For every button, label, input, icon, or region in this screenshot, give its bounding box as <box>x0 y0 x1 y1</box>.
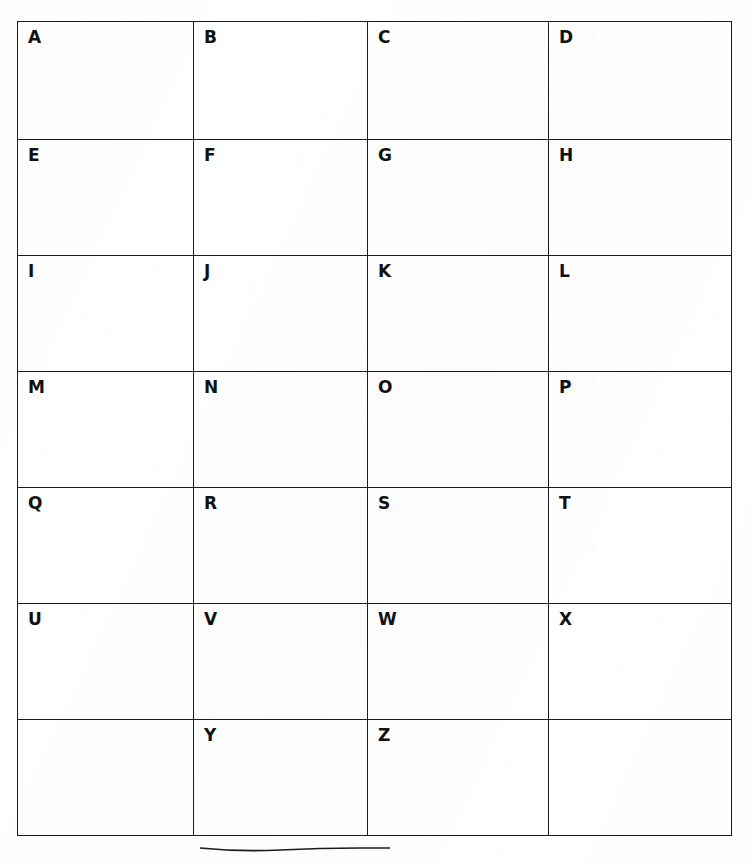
grid-cell-r[interactable]: R <box>194 488 368 604</box>
cell-letter-label: W <box>378 610 397 630</box>
grid-cell-m[interactable]: M <box>18 372 194 488</box>
cell-letter-label: X <box>559 610 572 630</box>
grid-cell-t[interactable]: T <box>549 488 732 604</box>
table-row: Y Z <box>18 720 732 836</box>
cell-letter-label: F <box>204 146 216 166</box>
grid-cell-o[interactable]: O <box>368 372 549 488</box>
cell-letter-label: L <box>559 262 570 282</box>
table-row: M N O P <box>18 372 732 488</box>
grid-cell-s[interactable]: S <box>368 488 549 604</box>
cell-letter-label: S <box>378 494 390 514</box>
cell-letter-label: B <box>204 28 217 48</box>
grid-cell-a[interactable]: A <box>18 22 194 140</box>
cell-letter-label: I <box>28 262 35 282</box>
cell-letter-label: T <box>559 494 571 514</box>
cell-letter-label: C <box>378 28 391 48</box>
grid-cell-c[interactable]: C <box>368 22 549 140</box>
cell-letter-label: J <box>204 262 211 282</box>
grid-cell-k[interactable]: K <box>368 256 549 372</box>
grid-cell-u[interactable]: U <box>18 604 194 720</box>
grid-cell-y[interactable]: Y <box>194 720 368 836</box>
table-row: A B C D <box>18 22 732 140</box>
grid-cell-i[interactable]: I <box>18 256 194 372</box>
cell-letter-label: Y <box>204 726 217 746</box>
alphabet-grid-body: A B C D E F <box>18 22 732 836</box>
cell-letter-label: R <box>204 494 217 514</box>
table-row: U V W X <box>18 604 732 720</box>
cell-letter-label: A <box>28 28 41 48</box>
table-row: Q R S T <box>18 488 732 604</box>
cell-letter-label: M <box>28 378 45 398</box>
cell-letter-label: Q <box>28 494 43 514</box>
grid-cell-d[interactable]: D <box>549 22 732 140</box>
grid-cell-z[interactable]: Z <box>368 720 549 836</box>
grid-cell-x[interactable]: X <box>549 604 732 720</box>
grid-cell-w[interactable]: W <box>368 604 549 720</box>
cell-letter-label: E <box>28 146 40 166</box>
grid-cell-q[interactable]: Q <box>18 488 194 604</box>
cell-letter-label: Z <box>378 726 391 746</box>
cell-letter-label: N <box>204 378 218 398</box>
grid-cell-p[interactable]: P <box>549 372 732 488</box>
worksheet-page: A B C D E F <box>0 0 751 865</box>
grid-cell-empty-left <box>18 720 194 836</box>
cell-letter-label: G <box>378 146 392 166</box>
grid-cell-h[interactable]: H <box>549 140 732 256</box>
grid-cell-v[interactable]: V <box>194 604 368 720</box>
alphabet-grid-table: A B C D E F <box>17 21 732 836</box>
alphabet-grid-container: A B C D E F <box>17 21 731 849</box>
grid-cell-l[interactable]: L <box>549 256 732 372</box>
grid-cell-empty-right <box>549 720 732 836</box>
grid-cell-e[interactable]: E <box>18 140 194 256</box>
cell-letter-label: U <box>28 610 42 630</box>
grid-cell-j[interactable]: J <box>194 256 368 372</box>
cell-letter-label: P <box>559 378 572 398</box>
cell-letter-label: D <box>559 28 573 48</box>
cell-letter-label: K <box>378 262 391 282</box>
cell-letter-label: V <box>204 610 217 630</box>
grid-cell-g[interactable]: G <box>368 140 549 256</box>
table-row: I J K L <box>18 256 732 372</box>
grid-cell-n[interactable]: N <box>194 372 368 488</box>
table-row: E F G H <box>18 140 732 256</box>
cell-letter-label: O <box>378 378 393 398</box>
grid-cell-f[interactable]: F <box>194 140 368 256</box>
grid-cell-b[interactable]: B <box>194 22 368 140</box>
cell-letter-label: H <box>559 146 573 166</box>
